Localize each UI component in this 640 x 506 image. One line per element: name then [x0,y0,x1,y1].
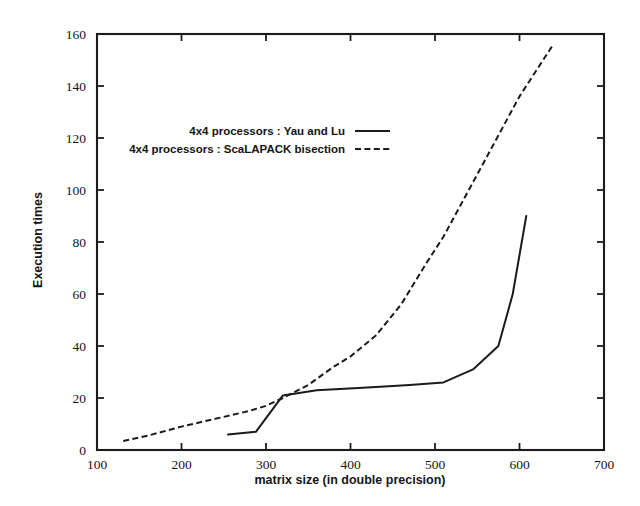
execution-times-line-chart: 100200300400500600700 020406080100120140… [0,0,640,506]
x-tick-label: 600 [509,457,530,472]
y-tick-label: 100 [66,183,87,198]
y-axis-title: Execution times [31,192,45,288]
y-tick-label: 40 [73,339,87,354]
y-tick-label: 120 [66,131,87,146]
x-tick-label: 400 [340,457,361,472]
x-axis-title: matrix size (in double precision) [254,473,445,487]
y-tick-label: 80 [73,235,87,250]
legend-label-2: 4x4 processors : ScaLAPACK bisection [129,143,345,155]
x-tick-label: 200 [171,457,192,472]
x-tick-label: 100 [87,457,108,472]
y-tick-label: 0 [79,443,86,458]
x-tick-label: 700 [594,457,615,472]
x-tick-label: 300 [256,457,277,472]
y-tick-label: 140 [66,79,87,94]
chart-figure: 100200300400500600700 020406080100120140… [0,0,640,506]
x-tick-label: 500 [425,457,446,472]
y-tick-label: 160 [66,27,87,42]
y-tick-label: 20 [73,391,87,406]
y-tick-label: 60 [73,287,87,302]
legend-label-1: 4x4 processors : Yau and Lu [189,125,345,137]
